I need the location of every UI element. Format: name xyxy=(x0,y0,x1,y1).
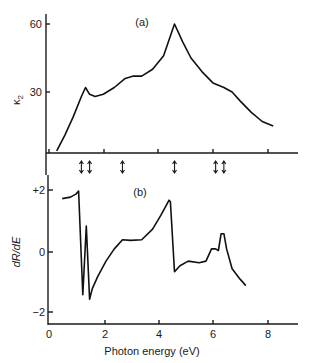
xtick-label-6: 6 xyxy=(210,328,216,340)
xtick-label-8: 8 xyxy=(265,328,271,340)
transition-arrows xyxy=(79,161,225,173)
panel-b-ytick-label-0: 0 xyxy=(39,246,45,258)
panel-b: +2 0 −2 0 2 4 6 8 Photon energy (eV) dR/… xyxy=(10,175,298,357)
panel-b-ytick-label-p2: +2 xyxy=(32,184,45,196)
xtick-label-0: 0 xyxy=(46,328,52,340)
transition-arrow-icon xyxy=(222,161,226,173)
transition-arrow-icon xyxy=(120,161,124,173)
panel-a-ytick-label-60: 60 xyxy=(30,18,42,30)
panel-a: 60 30 κ2 (a) xyxy=(10,14,298,175)
panel-a-label: (a) xyxy=(135,16,148,28)
panel-a-ytick-label-30: 30 xyxy=(30,86,42,98)
panel-a-ylabel: κ2 xyxy=(10,94,25,105)
x-axis-label: Photon energy (eV) xyxy=(104,345,199,357)
panel-b-ytick-label-m2: −2 xyxy=(32,306,45,318)
transition-arrow-icon xyxy=(88,161,92,173)
transition-arrow-icon xyxy=(214,161,218,173)
panel-b-ylabel: dR/dE xyxy=(10,236,22,267)
kappa2-curve xyxy=(57,24,274,151)
transition-arrow-icon xyxy=(173,161,177,173)
panel-b-label: (b) xyxy=(133,186,146,198)
xtick-label-2: 2 xyxy=(102,328,108,340)
optical-spectra-chart: 60 30 κ2 (a) +2 0 −2 0 2 4 6 8 Photon en… xyxy=(0,0,311,363)
dR-dE-curve xyxy=(62,191,246,299)
transition-arrow-icon xyxy=(79,161,83,173)
xtick-label-4: 4 xyxy=(156,328,162,340)
